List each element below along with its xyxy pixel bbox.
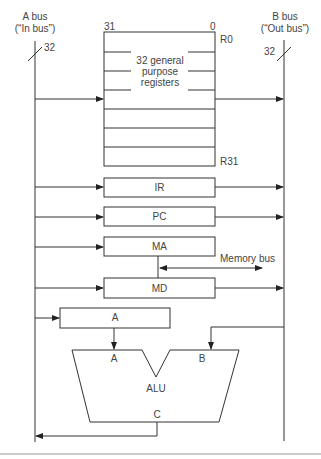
register-desc-3: registers [128,77,192,88]
a-bus-title: A bus [10,11,60,22]
b-bus-title: B bus [255,11,315,22]
a-bus-width: 32 [44,42,55,53]
register-msb: 31 [104,21,115,32]
memory-bus-label: Memory bus [220,253,275,264]
register-lsb: 0 [210,21,216,32]
md-label: MD [104,283,215,294]
register-desc-1: 32 general [128,55,192,66]
a-latch-label: A [60,312,170,323]
b-bus-subtitle: (“Out bus”) [255,23,315,34]
ir-label: IR [104,182,215,193]
pc-label: PC [104,211,215,222]
alu-input-b-label: B [192,353,212,364]
b-bus-width: 32 [264,46,275,57]
register-r31: R31 [220,156,238,167]
alu-input-a-label: A [104,353,124,364]
alu-output-c-label: C [147,409,167,420]
a-bus-subtitle: (“In bus”) [10,23,60,34]
register-r0: R0 [220,34,233,45]
ma-label: MA [104,241,215,252]
register-desc-2: purpose [128,66,192,77]
alu-label: ALU [140,383,172,394]
